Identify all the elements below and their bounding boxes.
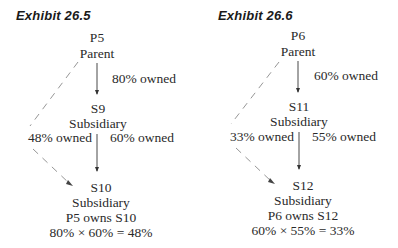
parent-role: Parent xyxy=(281,44,316,59)
edge-label-indirect: 48% owned xyxy=(28,130,92,145)
edge-label-middle-to-bottom: 55% owned xyxy=(312,129,376,144)
arrowhead-icon xyxy=(66,180,73,186)
middle-role: Subsidiary xyxy=(270,114,328,129)
exhibit-title: Exhibit 26.5 xyxy=(16,8,91,23)
middle-role: Subsidiary xyxy=(69,116,127,131)
bottom-code: S10 xyxy=(90,180,111,195)
bottom-code: S12 xyxy=(292,178,313,193)
bottom-note: P6 owns S12 xyxy=(268,208,339,223)
edge-label-parent-to-middle: 60% owned xyxy=(314,68,378,83)
bottom-note: P5 owns S10 xyxy=(66,210,137,225)
arrowhead-icon xyxy=(296,88,300,93)
middle-code: S9 xyxy=(91,101,105,116)
dashed-indirect-lower xyxy=(33,149,70,184)
edge-label-parent-to-middle: 80% owned xyxy=(112,71,176,86)
parent-code: P6 xyxy=(291,28,305,43)
bottom-role: Subsidiary xyxy=(72,195,130,210)
connector-lines xyxy=(0,0,398,248)
exhibit-title: Exhibit 26.6 xyxy=(218,8,293,23)
dashed-indirect-lower xyxy=(236,148,272,182)
bottom-formula: 60% × 55% = 33% xyxy=(252,223,355,238)
arrowhead-icon xyxy=(297,165,301,170)
arrowhead-icon xyxy=(95,167,99,172)
edge-label-indirect: 33% owned xyxy=(230,129,294,144)
edge-label-middle-to-bottom: 60% owned xyxy=(110,130,174,145)
bottom-formula: 80% × 60% = 48% xyxy=(50,225,153,240)
parent-role: Parent xyxy=(80,46,115,61)
arrowhead-icon xyxy=(95,90,99,95)
parent-code: P5 xyxy=(90,30,104,45)
bottom-role: Subsidiary xyxy=(274,193,332,208)
middle-code: S11 xyxy=(289,99,310,114)
